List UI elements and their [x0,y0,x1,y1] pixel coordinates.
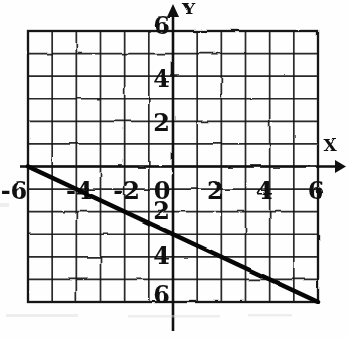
scan-artifact [6,314,78,317]
coordinate-plane-chart: XY-6-4-20246642246 [0,0,348,338]
scanned-coordinate-plane-figure: XY-6-4-20246642246 [0,0,348,338]
y-tick-label: 4 [153,64,170,93]
x-tick-label: 2 [207,176,224,205]
x-axis-arrow-icon [335,160,346,173]
y-tick-label: 6 [153,11,170,40]
x-axis-label: X [323,135,337,155]
x-tick-label: -2 [113,176,140,205]
y-tick-label: 4 [153,241,170,270]
y-tick-label: 2 [153,196,170,225]
y-tick-label: 2 [153,108,170,137]
x-tick-label: 4 [256,176,273,205]
x-tick-label: 6 [308,176,325,205]
scan-artifact [128,315,220,318]
graph-content: XY-6-4-20246642246 [1,0,346,331]
y-axis-label: Y [182,0,196,19]
x-tick-label: -6 [1,176,28,205]
y-tick-label: 6 [153,280,170,309]
scan-artifact [0,203,9,207]
scan-artifact [248,314,292,317]
